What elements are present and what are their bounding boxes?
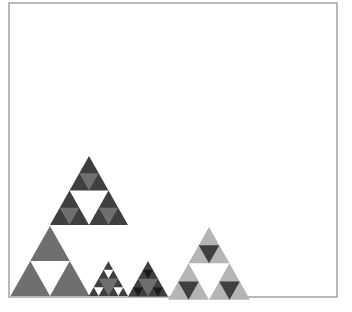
fractal-figure [0, 0, 352, 312]
